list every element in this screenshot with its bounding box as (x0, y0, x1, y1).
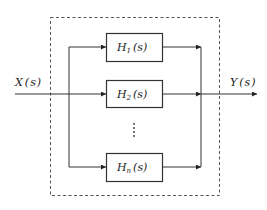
output-label: Y(s) (230, 76, 256, 89)
block-hn-var: H (116, 161, 127, 174)
block-hn-sub: n (127, 167, 132, 175)
block-h2-var: H (116, 88, 127, 101)
input-label: X(s) (14, 76, 41, 89)
block-hn: Hn(s) (107, 154, 163, 182)
block-h1-var: H (116, 41, 127, 54)
block-h1-sub: 1 (127, 47, 131, 55)
ellipsis-dots (133, 123, 135, 137)
block-h1: H1(s) (107, 34, 163, 62)
block-h2-sub: 2 (126, 94, 132, 102)
block-h2: H2(s) (107, 81, 163, 108)
parallel-block-diagram: H1(s) H2(s) Hn(s) X(s) Y(s) (0, 0, 267, 210)
